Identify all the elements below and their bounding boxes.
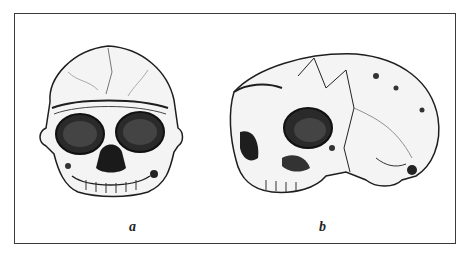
skull-b-illustration: [226, 48, 444, 200]
panel-label-a: a: [129, 219, 136, 235]
panel-label-b: b: [319, 219, 326, 235]
skull-a-illustration: [28, 42, 188, 200]
